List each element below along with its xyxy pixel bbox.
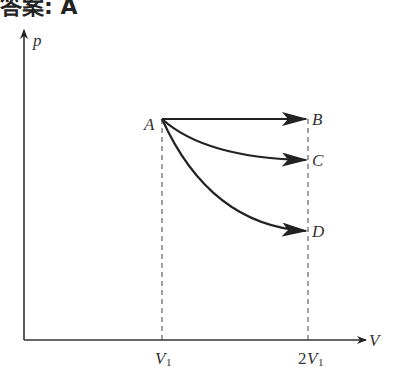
svg-text:2: 2 (298, 349, 307, 368)
tick-v1: V 1 (155, 349, 172, 368)
svg-text:1: 1 (318, 356, 324, 368)
pv-diagram: p V A B C D V 1 2 V 1 (0, 0, 400, 379)
y-axis-label: p (32, 31, 42, 50)
tick-2v1: 2 V 1 (298, 349, 324, 368)
point-c-label: C (312, 151, 324, 170)
svg-text:1: 1 (166, 356, 172, 368)
point-a-label: A (143, 115, 155, 134)
point-b-label: B (312, 110, 323, 129)
x-axis-label: V (369, 331, 382, 350)
process-a-c (162, 119, 306, 160)
point-d-label: D (311, 222, 325, 241)
process-a-d (162, 119, 306, 231)
